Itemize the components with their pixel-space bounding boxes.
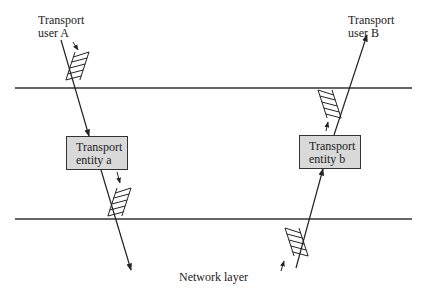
- label-user-a: Transport user A: [38, 14, 84, 40]
- queue-icon-b-top: [318, 90, 341, 118]
- queue-icon-b-bottom: [285, 228, 308, 256]
- small-arrow-a-top: [73, 42, 78, 50]
- transport-diagram: Transport user A Transport user B Transp…: [0, 0, 423, 296]
- small-arrow-b-bottom: [281, 261, 284, 271]
- transport-entity-b-box: Transport entity b: [299, 135, 361, 169]
- queue-icon-a-bottom: [108, 188, 131, 216]
- small-arrow-a-bottom: [117, 172, 120, 183]
- label-user-b: Transport user B: [348, 14, 394, 40]
- label-network-layer: Network layer: [179, 271, 248, 284]
- queue-icon-a-top: [66, 52, 89, 80]
- arrow-entity-a-to-network: [101, 170, 131, 270]
- small-arrow-b-top: [326, 122, 328, 131]
- transport-entity-a-box: Transport entity a: [66, 136, 128, 170]
- arrow-entity-b-to-user-b: [334, 35, 367, 135]
